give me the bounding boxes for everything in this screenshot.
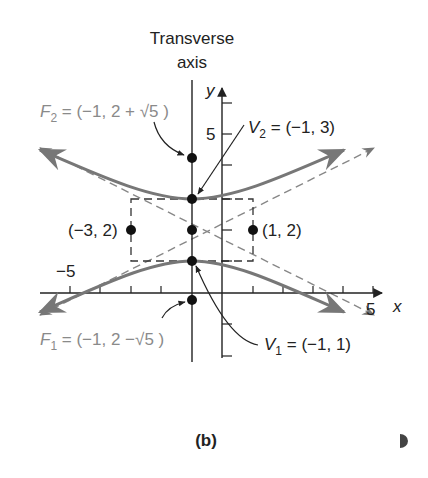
- focus-f1-label: F1 = (−1, 2 −√5 ): [40, 330, 164, 353]
- y-tick-label-5: 5: [206, 125, 215, 144]
- transverse-axis-label-2: axis: [177, 53, 207, 72]
- x-tick-label-5: 5: [366, 300, 375, 319]
- center-point: [187, 225, 197, 235]
- y-axis-label: y: [205, 81, 216, 100]
- page-marker-icon: [400, 434, 408, 448]
- box-left-label: (−3, 2): [68, 221, 118, 240]
- vertex-v1-point: [187, 256, 197, 266]
- figure-caption: (b): [195, 431, 217, 450]
- transverse-axis-label: Transverse: [150, 29, 234, 48]
- focus-f1-point: [187, 295, 197, 305]
- focus-f2-point: [187, 153, 197, 163]
- box-right-label: (1, 2): [262, 221, 302, 240]
- x-tick-label-neg5: −5: [56, 262, 75, 281]
- callouts: [154, 122, 258, 345]
- hyperbola-diagram: Transverse axis y x 5 5 −5 F2 = (−1, 2 +…: [0, 0, 428, 478]
- vertex-v2-point: [187, 194, 197, 204]
- box-left-point: [126, 225, 136, 235]
- vertex-v1-label: V1 = (−1, 1): [264, 335, 351, 358]
- box-right-point: [248, 225, 258, 235]
- focus-f2-label: F2 = (−1, 2 + √5 ): [40, 102, 169, 125]
- vertex-v2-label: V2 = (−1, 3): [248, 118, 335, 141]
- x-axis-label: x: [392, 297, 402, 316]
